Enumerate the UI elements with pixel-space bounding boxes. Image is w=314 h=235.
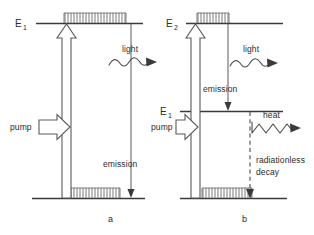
panel-b-level-label-E1: E [160, 106, 167, 117]
panel-b-emission-label: emission [203, 84, 238, 94]
panel-b: E 2 E 1 [151, 13, 305, 224]
panel-b-caption: b [242, 214, 247, 224]
panel-a-ground-level-hatching [70, 188, 120, 198]
panel-a-upper-level-hatching [64, 13, 126, 23]
panel-a-emission-arrowhead [128, 189, 135, 198]
panel-b-light-wave [230, 59, 270, 67]
panel-a-level-label-E: E [15, 18, 22, 29]
panel-a-light-label: light [122, 44, 139, 54]
panel-a-caption: a [108, 214, 113, 224]
panel-a-pump-label: pump [10, 122, 32, 132]
panel-b-ground-level-hatching [202, 188, 252, 198]
panel-a: E 1 [10, 13, 157, 224]
panel-a-light-wave [109, 58, 149, 66]
panel-b-emission-arrowhead [225, 102, 232, 111]
panel-b-level-label-E2-subscript: 2 [174, 24, 178, 31]
panel-b-upper-level-hatching [197, 13, 229, 23]
panel-a-emission-label: emission [103, 159, 138, 169]
panel-b-radiationless-decay-label-line2: decay [256, 167, 280, 177]
panel-b-level-label-E1-subscript: 1 [168, 112, 172, 119]
panel-a-pump-arrow [57, 24, 76, 198]
panel-a-light-arrowhead [146, 58, 157, 67]
panel-b-heat-arrowhead [290, 124, 301, 133]
panel-b-pump-label: pump [151, 122, 173, 132]
panel-b-light-label: light [243, 44, 260, 54]
panel-b-light-arrowhead [267, 59, 278, 68]
panel-b-radiationless-decay-label-line1: radiationless [256, 155, 305, 165]
energy-level-diagram-figure: E 1 [0, 0, 314, 235]
panel-b-level-label-E2: E [166, 18, 173, 29]
panel-a-level-label-E-subscript: 1 [23, 24, 27, 31]
panel-b-heat-zigzag [252, 122, 292, 133]
panel-b-radiationless-decay-arrowhead [246, 189, 254, 199]
panel-b-heat-label: heat [263, 110, 280, 120]
